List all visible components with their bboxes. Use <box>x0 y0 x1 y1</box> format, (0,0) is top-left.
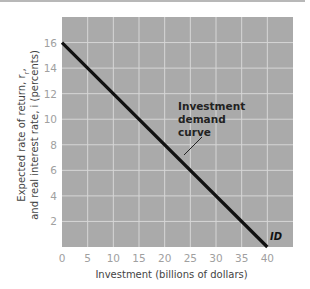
y-tick-label: 10 <box>44 113 57 125</box>
y-tick-label: 6 <box>50 164 57 176</box>
x-tick-label: 15 <box>132 252 145 264</box>
x-tick-label: 5 <box>84 252 91 264</box>
y-tick-label: 16 <box>44 37 58 49</box>
y-tick-label: 12 <box>44 88 57 100</box>
x-tick-label: 10 <box>107 252 120 264</box>
x-tick-label: 40 <box>261 252 274 264</box>
y-tick-label: 14 <box>44 62 58 74</box>
x-tick-label: 35 <box>235 252 248 264</box>
x-tick-label: 30 <box>209 252 222 264</box>
series-label-id: ID <box>270 231 282 242</box>
x-axis-label: Investment (billions of dollars) <box>95 269 247 280</box>
y-axis-label-line2: and real interest rate, i (percents) <box>29 50 40 220</box>
x-tick-label: 0 <box>59 252 66 264</box>
x-tick-label: 25 <box>184 252 197 264</box>
y-tick-label: 2 <box>50 215 57 227</box>
investment-demand-chart: 0510152025303540 246810121416 Investment… <box>0 0 310 289</box>
x-tick-label: 20 <box>158 252 171 264</box>
x-axis-ticks: 0510152025303540 <box>59 252 274 264</box>
y-axis-ticks: 246810121416 <box>44 37 58 228</box>
y-tick-label: 4 <box>50 190 57 202</box>
y-tick-label: 8 <box>50 139 57 151</box>
